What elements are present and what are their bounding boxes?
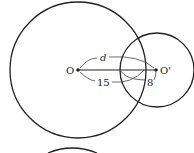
radius-left-arc — [80, 72, 95, 81]
distance-arc-right — [109, 57, 154, 68]
radius-right-arc — [120, 70, 145, 80]
center-dot-o-prime — [154, 68, 158, 72]
radius-right-arc-right — [154, 72, 156, 80]
diagram-canvas: O O' d 15 8 — [0, 0, 194, 153]
label-o-prime: O' — [160, 65, 171, 76]
partial-circle-bottom — [48, 148, 97, 153]
label-radius-left: 15 — [97, 77, 110, 88]
label-o: O — [66, 65, 74, 76]
label-distance: d — [100, 52, 106, 63]
center-dot-o — [76, 68, 80, 72]
label-radius-right: 8 — [147, 77, 153, 88]
distance-arc — [80, 58, 97, 68]
radius-left-arc-right — [112, 70, 144, 82]
